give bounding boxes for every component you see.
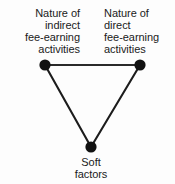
node-label-direct: Nature of direct fee-earning activities bbox=[104, 7, 175, 55]
edge-direct-soft bbox=[91, 65, 140, 147]
node-label-indirect: Nature of indirect fee-earning activitie… bbox=[2, 7, 80, 55]
node-direct-dot bbox=[134, 59, 145, 70]
node-label-soft: Soft factors bbox=[55, 156, 127, 180]
edge-indirect-soft bbox=[45, 65, 91, 147]
node-soft-dot bbox=[85, 141, 96, 152]
node-indirect-dot bbox=[39, 59, 50, 70]
triangle-diagram: Nature of indirect fee-earning activitie… bbox=[0, 0, 175, 184]
